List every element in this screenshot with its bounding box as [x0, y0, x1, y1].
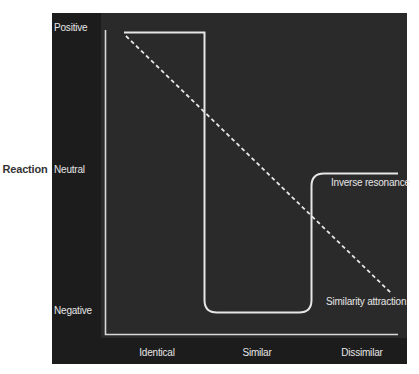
annotation-similarity-attraction: Similarity attraction [326, 296, 406, 307]
inverse-resonance-line [124, 33, 398, 313]
similarity-attraction-line [126, 36, 391, 293]
annotation-inverse-resonance: Inverse resonance [331, 177, 410, 188]
